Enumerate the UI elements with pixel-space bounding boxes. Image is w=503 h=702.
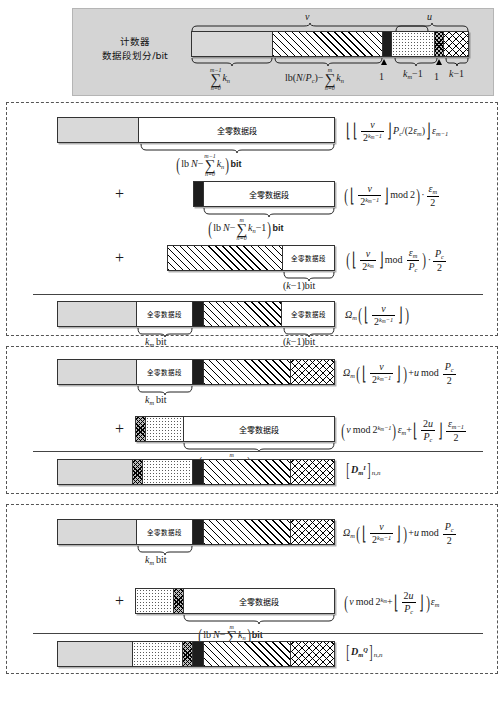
block2-result-bar [57,459,335,485]
block2-sum-rule [33,451,483,452]
annotation-one-a: 1 [379,72,384,82]
block1-plus-2: + [115,249,124,267]
bar-segment-grey [58,642,133,666]
zero-segment-label: 全零数据段 [146,527,183,537]
annotation-k-minus-1: k−1 [449,69,464,79]
bar-segment-zero-data: 全零数据段 [184,589,334,613]
bar-segment-dense-crosshatch [174,589,184,613]
bar-segment-diagonal [204,460,291,484]
brace-km-minus-1 [394,58,438,67]
annotation-km-minus-1: km−1 [403,69,423,80]
bar-segment-diagonal [204,520,291,544]
bar-segment-zero-data: 全零数据段 [137,520,193,544]
header-panel: 计数器 数据段划分/bit v u [72,8,494,96]
block3-row1-formula: Ωm(⌊v2km−1⌋)+u mod Pc2 [343,522,458,546]
bar-segment-black [194,182,204,206]
zero-segment-label: 全零数据段 [248,189,290,200]
tick-one-b [436,59,442,65]
header-label-line2: 数据段划分/bit [89,49,181,63]
bar-segment-sum-k [192,32,273,56]
header-label: 计数器 数据段划分/bit [89,35,181,63]
block2-row2-bar: 全零数据段 [135,416,335,442]
bar-segment-k-minus-1 [444,32,468,56]
bar-segment-diagonal [204,642,291,666]
block1-plus-1: + [115,185,124,203]
zero-segment-label: 全零数据段 [216,125,258,136]
bar-segment-zero-data: 全零数据段 [139,118,334,142]
zero-segment-label: 全零数据段 [290,253,327,263]
block3-result-bar [57,641,335,667]
block3-row1-brace-label: km bit [145,555,167,566]
zero-segment-label: 全零数据段 [238,424,280,435]
block1-sum-rule [33,294,483,295]
zero-segment-label: 全零数据段 [290,309,327,319]
brace-sum-k [191,58,273,67]
header-label-line1: 计数器 [89,35,181,49]
bar-segment-dotted [143,460,193,484]
bar-segment-black [193,520,204,544]
bar-segment-diagonal [204,360,291,384]
block1-row2-brace-label: (lb N−m∑n=0kn−1)bit [207,217,283,241]
bar-segment-grey [58,520,137,544]
bar-segment-dotted [146,417,184,441]
block-2: 全零数据段 km bit Ωm(⌊v2km−1⌋)+u mod Pc2 + 全零… [6,346,498,494]
block2-row1-formula: Ωm(⌊v2km−1⌋)+u mod Pc2 [343,362,458,386]
block2-row1-bar: 全零数据段 [57,359,335,385]
annotation-one-b: 1 [434,72,439,82]
block-3: 全零数据段 km bit Ωm(⌊v2km−1⌋)+u mod Pc2 + 全零… [6,504,498,674]
bar-segment-one-a [383,32,392,56]
bar-segment-grey [58,460,133,484]
bar-segment-grey [58,302,137,326]
bar-segment-black [193,642,204,666]
bar-segment-dotted [136,589,174,613]
block1-result-bar: 全零数据段 全零数据段 [57,301,335,327]
bar-segment-crosshatch [291,360,334,384]
bar-segment-zero-data: 全零数据段 [184,417,334,441]
bar-segment-crosshatch [291,520,334,544]
block3-row2-formula: (v mod 2km+⌊2uPc⌋)εm [343,591,439,615]
bar-segment-zero-data: 全零数据段 [137,302,193,326]
block1-row3-formula: (⌊v2km⌋mod εmPc)·Pc2 [345,248,448,273]
block3-row1-bar: 全零数据段 [57,519,335,545]
brace-lb-minus-sum [274,58,383,67]
bar-segment-diagonal [204,302,282,326]
bar-segment-dense-crosshatch [133,460,143,484]
block1-row1-bar: 全零数据段 [57,117,335,143]
block2-row1-brace-label: km bit [145,395,167,406]
bar-segment-zero-data: 全零数据段 [137,360,193,384]
block1-row3-brace-label: (k−1)bit [283,281,315,291]
block1-row2-bar: 全零数据段 [193,181,335,207]
annotation-sum-k: m−1∑n=0kn [209,67,230,91]
block1-row3-bar: 全零数据段 [167,245,335,271]
zero-segment-label: 全零数据段 [146,367,183,377]
bar-segment-grey [58,360,137,384]
bar-segment-zero-data: 全零数据段 [282,302,334,326]
bar-segment-diagonal [168,246,283,270]
block-1: 全零数据段 (lb N−m−1∑n=0kn)bit ⌊⌊v2km−1⌋Pc/(2… [6,102,498,336]
block3-row2-bar: 全零数据段 [135,588,335,614]
block1-row2-formula: (⌊v2km−1⌋mod 2)·εm2 [343,184,441,208]
block3-sum-rule [33,633,483,634]
bar-segment-dense-crosshatch [136,417,146,441]
bar-segment-black [193,360,204,384]
marker-v: v [305,11,309,22]
annotation-lb-minus-sum: lb(N/Pc)−m∑n=0kn [285,67,344,91]
block3-plus-1: + [115,592,124,610]
bar-segment-lb-minus [273,32,382,56]
bar-segment-dense-crosshatch [183,642,193,666]
bar-segment-crosshatch [291,642,334,666]
bar-segment-grey [58,118,139,142]
tick-one-a [381,59,387,65]
block1-row1-formula: ⌊⌊v2km−1⌋Pc/(2εm)⌋εm−1 [345,120,448,143]
brace-k-minus-1 [445,58,469,67]
bar-segment-black [193,460,204,484]
bar-segment-km-minus-1 [392,32,436,56]
block2-result-formula: [DmI]n,n [345,463,380,478]
zero-segment-label: 全零数据段 [146,309,183,319]
bar-segment-one-b [435,32,444,56]
zero-segment-label: 全零数据段 [238,596,280,607]
block1-result-formula: Ωm(⌊v2km−1⌋) [345,304,410,327]
block1-row1-brace-label: (lb N−m−1∑n=0kn)bit [175,153,241,177]
block2-plus-1: + [115,420,124,438]
bar-segment-zero-data: 全零数据段 [283,246,334,270]
